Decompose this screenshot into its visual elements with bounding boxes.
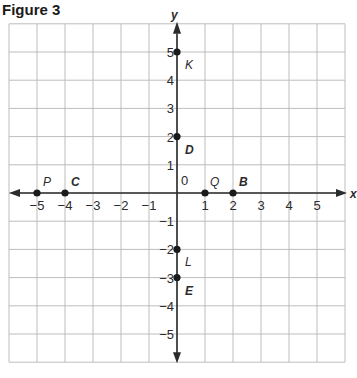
point-label-q: Q (210, 175, 219, 189)
coordinate-plane: xy 0−5−4−3−2−11234554321−1−2−3−4−5 PCQBK… (0, 0, 357, 378)
origin-label: 0 (181, 173, 188, 188)
y-tick-label: −5 (159, 327, 174, 342)
point-label-k: K (185, 58, 194, 72)
point-e (173, 274, 180, 281)
point-label-b: B (239, 175, 248, 189)
y-tick-label: 4 (167, 73, 174, 88)
x-tick-label: 5 (313, 198, 320, 213)
point-label-e: E (185, 284, 194, 298)
plotted-points: PCQBKDLE (33, 48, 248, 297)
x-tick-label: 3 (257, 198, 264, 213)
y-tick-label: 1 (167, 158, 174, 173)
x-axis-left-arrow-icon (9, 189, 20, 197)
point-k (173, 48, 180, 55)
point-label-c: C (71, 175, 80, 189)
point-label-p: P (43, 175, 51, 189)
y-axis-label: y (170, 8, 179, 22)
point-p (33, 189, 40, 196)
x-tick-label: −3 (86, 198, 101, 213)
x-tick-label: −4 (58, 198, 73, 213)
point-label-d: D (185, 143, 194, 157)
y-tick-label: −2 (159, 242, 174, 257)
x-tick-label: −2 (114, 198, 129, 213)
x-axis-label: x (349, 187, 357, 201)
y-tick-label: 3 (167, 101, 174, 116)
x-tick-label: −5 (30, 198, 45, 213)
y-tick-label: 2 (167, 130, 174, 145)
x-tick-label: 2 (229, 198, 236, 213)
y-axis-down-arrow-icon (173, 352, 181, 363)
y-tick-label: −3 (159, 271, 174, 286)
point-b (229, 189, 236, 196)
x-tick-label: −1 (142, 198, 157, 213)
y-tick-label: 5 (167, 45, 174, 60)
point-d (173, 133, 180, 140)
point-label-l: L (185, 255, 192, 269)
point-c (61, 189, 68, 196)
y-tick-label: −4 (159, 299, 174, 314)
x-tick-label: 1 (201, 198, 208, 213)
x-tick-label: 4 (285, 198, 292, 213)
point-l (173, 246, 180, 253)
y-tick-label: −1 (159, 214, 174, 229)
point-q (201, 189, 208, 196)
